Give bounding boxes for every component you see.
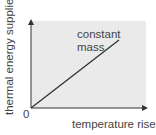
origin-label: 0: [23, 108, 29, 120]
line-annotation: constant mass: [77, 28, 120, 54]
y-axis-label: thermal energy supplied: [3, 5, 15, 115]
x-axis-label: temperature rise: [72, 118, 156, 130]
annotation-line-2: mass: [77, 41, 120, 54]
annotation-line-1: constant: [77, 28, 120, 41]
